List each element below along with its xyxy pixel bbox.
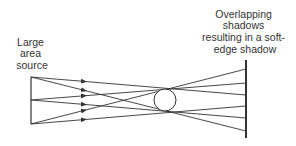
source-label-line: area bbox=[20, 47, 41, 59]
light-rays bbox=[31, 69, 246, 131]
ray bbox=[31, 100, 84, 104]
soft-shadow-diagram: Large area source Overlapping shadows re… bbox=[0, 0, 296, 146]
ray bbox=[31, 96, 84, 100]
occluding-object-circle bbox=[154, 89, 176, 111]
source-label-line: source bbox=[16, 59, 48, 71]
shadow-label-line: shadows bbox=[223, 19, 264, 31]
source-label: Large area source bbox=[16, 36, 48, 71]
shadow-label-line: resulting in a soft- bbox=[202, 31, 285, 43]
shadow-label: Overlapping shadows resulting in a soft-… bbox=[202, 8, 288, 55]
shadow-label-line: edge shadow bbox=[214, 43, 277, 55]
